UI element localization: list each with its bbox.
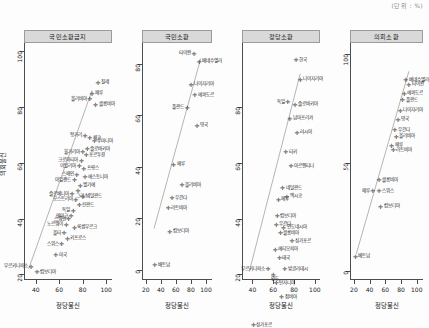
data-point-label: 콜롬비아 [283,231,299,236]
panel-strip-3: 정당소환 [242,30,320,43]
x-axis-label: 정당불신 [350,301,423,310]
panel-3: 정당소환20406080406080100✛한국✛나이지리아✛독일✛슬로바키아✛… [218,24,326,316]
unit-note: (단위 : %) [392,1,423,10]
data-point-label: 불가리아 [64,150,80,155]
cross-marker-icon: ✛ [197,59,202,64]
y-tick-label: 20 [16,274,23,282]
cross-marker-icon: ✛ [266,266,271,271]
data-point-label: 영국 [200,123,208,128]
x-tick [370,280,371,284]
data-point-label: 에콰도르 [407,91,423,96]
data-point-label: 몰타 [53,231,61,236]
y-tick-label: 20 [234,274,241,282]
panel-2: 국민소환02040608020406080100✛타이완✛베네수엘라✛나이지리아… [118,24,218,316]
x-tick [315,280,316,284]
x-tick [385,280,386,284]
cross-marker-icon: ✛ [152,262,157,267]
x-axis-label: 정당불신 [242,301,320,310]
data-point-label: 방글라데시 [288,267,308,272]
y-tick-label: 60 [134,115,141,123]
x-tick-label: 60 [269,286,277,293]
data-point-label: 볼리비아 [71,97,87,102]
x-tick [354,280,355,284]
cross-marker-icon: ✛ [275,213,280,218]
figure-canvas: (단위 : %) 의회불신 국민소환금지20406080100406080100… [0,0,429,328]
cross-marker-icon: ✛ [287,116,292,121]
cross-marker-icon: ✛ [395,117,400,122]
cross-marker-icon: ✛ [378,204,383,209]
x-tick [146,280,147,284]
data-point-label: 부르키나파소 [241,267,265,272]
x-tick-label: 40 [366,286,374,293]
data-point-label: 노르웨이 [47,222,63,227]
x-tick [176,280,177,284]
cross-marker-icon: ✛ [59,241,64,246]
x-tick-label: 80 [290,286,298,293]
data-point-label: 타이완 [179,51,191,56]
cross-marker-icon: ✛ [80,194,85,199]
data-point-label: 캄보디아 [40,270,56,275]
plot-area-4: 05010020406080100✛베네수엘라✛타이완✛에콰도르✛폴란드✛나이지… [350,43,423,280]
y-tick-label: 40 [234,219,241,227]
data-point-label: 크로아티아 [58,158,78,163]
data-point-label: 볼리비아 [185,183,201,188]
cross-marker-icon: ✛ [285,99,290,104]
cross-marker-icon: ✛ [294,57,299,62]
data-point-label: 콜롬비아 [382,178,398,183]
cross-marker-icon: ✛ [194,123,199,128]
plot-area-3: 20406080406080100✛한국✛나이지리아✛독일✛슬로바키아✛남아프리… [242,43,320,280]
cross-marker-icon: ✛ [278,230,283,235]
y-tick-label: 100 [342,54,349,65]
cross-marker-icon: ✛ [84,152,89,157]
x-tick [191,280,192,284]
cross-marker-icon: ✛ [273,247,278,252]
data-point-label: 탄자니아 [279,281,295,286]
panel-4: 의회소환05010020406080100✛베네수엘라✛타이완✛에콰도르✛폴란드… [326,24,429,316]
cross-marker-icon: ✛ [171,162,176,167]
x-tick-label: 60 [381,286,389,293]
panel-strip-1: 국민소환금지 [24,30,112,43]
x-tick-label: 60 [55,286,63,293]
cross-marker-icon: ✛ [81,166,86,171]
x-tick-label: 40 [32,286,40,293]
cross-marker-icon: ✛ [34,269,39,274]
data-point-label: 터키 [289,150,297,155]
data-point-label: 러시아 [300,130,312,135]
cross-marker-icon: ✛ [277,255,282,260]
data-point-label: 라트비아 [396,148,412,153]
data-point-label: 폴란드 [172,105,184,110]
cross-marker-icon: ✛ [370,188,375,193]
x-tick-label: 100 [200,286,211,293]
data-point-label: 캄보디아 [173,229,189,234]
data-point-label: 영국 [401,117,409,122]
x-tick-label: 100 [411,286,422,293]
cross-marker-icon: ✛ [353,254,358,259]
data-point-label: 에콰도르 [198,93,214,98]
cross-marker-icon: ✛ [394,134,399,139]
x-tick [401,280,402,284]
data-point-label: 슬로바키아 [90,147,110,152]
cross-marker-icon: ✛ [92,138,97,143]
y-tick-label: 20 [134,218,141,226]
cross-marker-icon: ✛ [167,229,172,234]
x-tick-label: 100 [100,286,111,293]
cross-marker-icon: ✛ [288,163,293,168]
cross-marker-icon: ✛ [93,102,98,107]
x-tick [59,280,60,284]
cross-marker-icon: ✛ [377,188,382,193]
data-point-label: 싱가포르 [256,323,272,328]
data-point-label: 슬로바키아 [298,102,318,107]
cross-marker-icon: ✛ [29,264,34,269]
panel-row: 국민소환금지20406080100406080100✛칠레✛페루✛볼리비아✛콜롬… [0,24,429,316]
data-point-label: 에스토니아 [88,175,108,180]
y-tick-label: 60 [234,163,241,171]
data-point-label: 남아프리카 [293,116,313,121]
cross-marker-icon: ✛ [279,294,284,299]
y-tick-label: 40 [16,219,23,227]
data-point-label: 포르투갈 [89,153,105,158]
x-tick [252,280,253,284]
data-point-label: 폴란드 [406,98,418,103]
y-tick-label: 0 [342,271,349,275]
y-tick-label: 80 [134,64,141,72]
cross-marker-icon: ✛ [276,197,281,202]
